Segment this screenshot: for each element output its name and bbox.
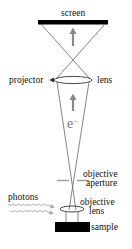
sample-block xyxy=(55,222,90,232)
objective-lens-label-line2: lens xyxy=(89,207,104,216)
diagram-graphics xyxy=(0,0,132,249)
electron-label: e− xyxy=(67,117,78,131)
electron-charge: − xyxy=(73,117,78,126)
sample-label: sample xyxy=(91,223,118,232)
screen-label: screen xyxy=(61,9,85,18)
photon-arrows-icon xyxy=(8,204,54,214)
lens-label: lens xyxy=(97,76,112,85)
electron-arrow-icon xyxy=(70,94,77,112)
photons-label: photons xyxy=(8,193,38,202)
screen-bar xyxy=(38,20,108,25)
image-arrow-icon xyxy=(70,28,77,47)
projector-label: projector xyxy=(9,76,43,85)
objective-aperture-label-line2: aperture xyxy=(86,179,117,188)
diagram-canvas: screen projector lens e− objective apert… xyxy=(0,0,132,249)
projector-pointer-icon xyxy=(49,78,54,83)
sample-rays xyxy=(66,211,78,222)
projector-lens-shape xyxy=(54,76,92,83)
